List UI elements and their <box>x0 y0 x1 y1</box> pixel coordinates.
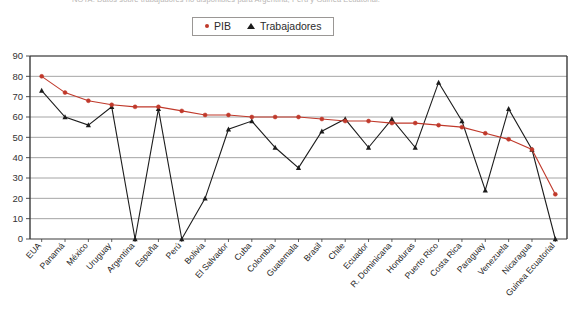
data-point-pib <box>320 117 324 121</box>
x-axis-label: Panamá <box>38 240 67 271</box>
data-point-pib <box>133 105 137 109</box>
data-point-pib <box>180 109 184 113</box>
y-axis-tick-label: 70 <box>12 91 23 102</box>
y-axis-tick-label: 30 <box>12 172 23 183</box>
data-point-pib <box>437 123 441 127</box>
y-axis-tick-label: 20 <box>12 193 23 204</box>
data-point-pib <box>110 103 114 107</box>
data-point-pib <box>460 125 464 129</box>
data-point-pib <box>483 131 487 135</box>
data-point-pib <box>156 105 160 109</box>
data-point-pib <box>343 119 347 123</box>
x-axis-label: España <box>133 240 160 269</box>
data-point-pib <box>63 91 67 95</box>
y-axis-tick-label: 50 <box>12 132 23 143</box>
y-axis-tick-label: 80 <box>12 71 23 82</box>
y-axis-tick-label: 0 <box>18 233 23 244</box>
data-point-pib <box>507 137 511 141</box>
data-point-pib <box>86 99 90 103</box>
data-point-pib <box>297 115 301 119</box>
data-point-pib <box>40 74 44 78</box>
x-axis-label: Cuba <box>232 240 253 262</box>
data-point-pib <box>390 121 394 125</box>
data-point-pib <box>367 119 371 123</box>
x-axis-label: EUA <box>24 240 43 260</box>
data-point-pib <box>203 113 207 117</box>
data-point-pib <box>250 115 254 119</box>
chart-plot-area: 0102030405060708090EUAPanamáMéxicoUrugua… <box>0 0 585 315</box>
y-axis-tick-label: 60 <box>12 111 23 122</box>
y-axis-tick-label: 10 <box>12 213 23 224</box>
data-point-pib <box>413 121 417 125</box>
data-point-pib <box>273 115 277 119</box>
data-point-pib <box>553 192 557 196</box>
y-axis-tick-label: 40 <box>12 152 23 163</box>
y-axis-tick-label: 90 <box>12 50 23 61</box>
data-point-pib <box>530 148 534 152</box>
data-point-pib <box>226 113 230 117</box>
x-axis-label: Perú <box>164 240 184 260</box>
x-axis-label: Brasil <box>302 241 324 264</box>
x-axis-label: Chile <box>326 240 347 261</box>
line-chart: 0102030405060708090EUAPanamáMéxicoUrugua… <box>0 0 585 315</box>
